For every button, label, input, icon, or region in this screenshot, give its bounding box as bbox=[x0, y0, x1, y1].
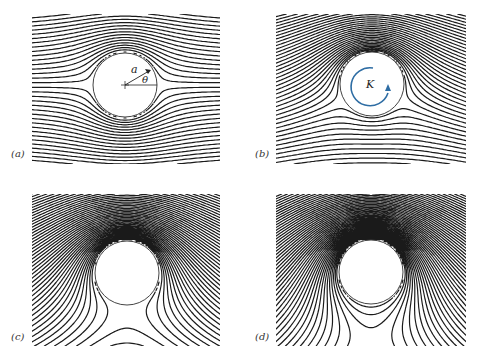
cylinder-d bbox=[339, 240, 403, 304]
panel-label-d: (d) bbox=[255, 331, 269, 342]
panel-label-b: (b) bbox=[255, 148, 269, 159]
panel-d bbox=[276, 194, 466, 346]
panel-label-a: (a) bbox=[11, 148, 25, 159]
circulation-label: K bbox=[365, 78, 375, 91]
panel-c bbox=[32, 194, 220, 346]
panel-a: a θ bbox=[32, 14, 220, 164]
panel-label-c: (c) bbox=[11, 331, 24, 342]
cylinder-c bbox=[95, 241, 159, 305]
radius-label: a bbox=[131, 63, 138, 76]
streamline-figure: a θ K bbox=[0, 0, 481, 362]
angle-label: θ bbox=[142, 74, 148, 85]
panel-b: K bbox=[276, 14, 466, 164]
